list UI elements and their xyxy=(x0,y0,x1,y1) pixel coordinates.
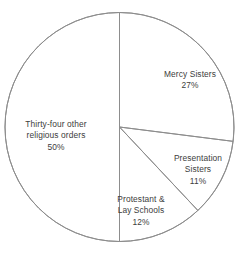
pie-slice-label-text: Sisters xyxy=(174,164,222,175)
pie-slice-value: 27% xyxy=(164,80,216,91)
pie-slice-label-text: Mercy Sisters xyxy=(164,69,216,80)
pie-slice-label: Mercy Sisters27% xyxy=(164,69,216,92)
pie-slice-value: 11% xyxy=(174,176,222,187)
pie-slice-label: Thirty-four otherreligious orders50% xyxy=(25,119,86,153)
pie-slice-value: 12% xyxy=(117,217,164,228)
pie-slice-value: 50% xyxy=(25,142,86,153)
pie-slice-label-text: Lay Schools xyxy=(117,205,164,216)
pie-slice-label-text: Protestant & xyxy=(117,194,164,205)
pie-chart: Mercy Sisters27%PresentationSisters11%Pr… xyxy=(0,0,246,253)
pie-slice-label: Protestant &Lay Schools12% xyxy=(117,194,164,228)
pie-slice-label: PresentationSisters11% xyxy=(174,153,222,187)
pie-slice-label-text: Presentation xyxy=(174,153,222,164)
pie-slice-label-text: religious orders xyxy=(25,130,86,141)
pie-slice-label-text: Thirty-four other xyxy=(25,119,86,130)
